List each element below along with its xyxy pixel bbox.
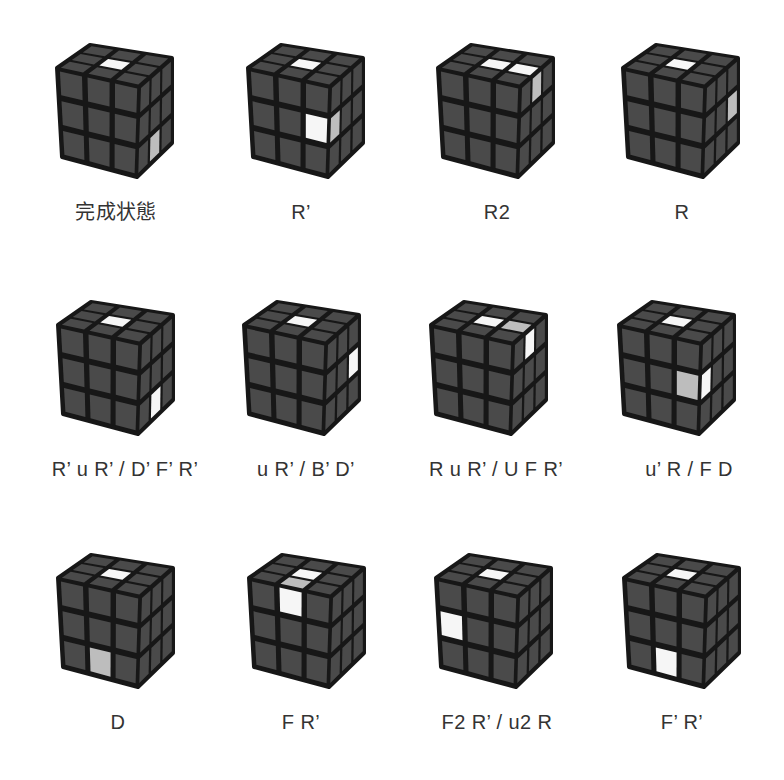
sticker [116, 594, 138, 623]
sticker [682, 594, 704, 623]
case-front-right-flipped: u’ R / F D [618, 302, 740, 502]
cube-diagram [435, 43, 557, 181]
case-label: F’ R’ [661, 710, 703, 734]
cube-diagram [241, 300, 363, 438]
case-label: R2 [484, 200, 510, 224]
case-f2-r-prime: F2 R’ / u2 R [435, 555, 557, 755]
sticker [302, 341, 324, 370]
case-label: R u R’ / U F R’ [429, 457, 563, 481]
cube-diagram [55, 553, 177, 691]
case-label: R’ [291, 200, 311, 224]
cube-diagram [620, 43, 742, 181]
cube-diagram [616, 300, 738, 438]
sticker [307, 594, 329, 623]
cube-diagram [433, 553, 555, 691]
case-label: F2 R’ / u2 R [442, 710, 553, 734]
cube-diagram [621, 553, 743, 691]
case-back-right-edge: u R’ / B’ D’ [243, 302, 365, 502]
sticker [494, 594, 516, 623]
case-label: F R’ [282, 710, 320, 734]
sticker [677, 341, 699, 370]
sticker [116, 341, 138, 370]
case-flipped-edge: R’ u R’ / D’ F’ R’ [57, 302, 179, 502]
case-r: R [622, 45, 744, 245]
case-completed-state: 完成状態 [56, 45, 178, 245]
case-label: R’ u R’ / D’ F’ R’ [52, 457, 198, 481]
case-up-right-flipped: R u R’ / U F R’ [430, 302, 552, 502]
case-label: D [111, 710, 126, 734]
case-label: u’ R / F D [645, 457, 733, 481]
case-r-prime: R’ [247, 45, 369, 245]
cube-diagram [245, 43, 367, 181]
cube-diagram [428, 300, 550, 438]
case-label: u R’ / B’ D’ [257, 457, 355, 481]
case-label: 完成状態 [75, 200, 157, 224]
sticker [489, 341, 511, 370]
case-d: D [57, 555, 179, 755]
sticker [306, 84, 328, 113]
cube-diagram [54, 43, 176, 181]
case-f-r-prime: F R’ [248, 555, 370, 755]
case-f-prime-r-prime: F’ R’ [623, 555, 745, 755]
sticker [681, 84, 703, 113]
case-r2: R2 [437, 45, 559, 245]
case-label: R [675, 200, 690, 224]
sticker [496, 84, 518, 113]
cube-diagram [55, 300, 177, 438]
cube-diagram [246, 553, 368, 691]
sticker [115, 84, 137, 113]
